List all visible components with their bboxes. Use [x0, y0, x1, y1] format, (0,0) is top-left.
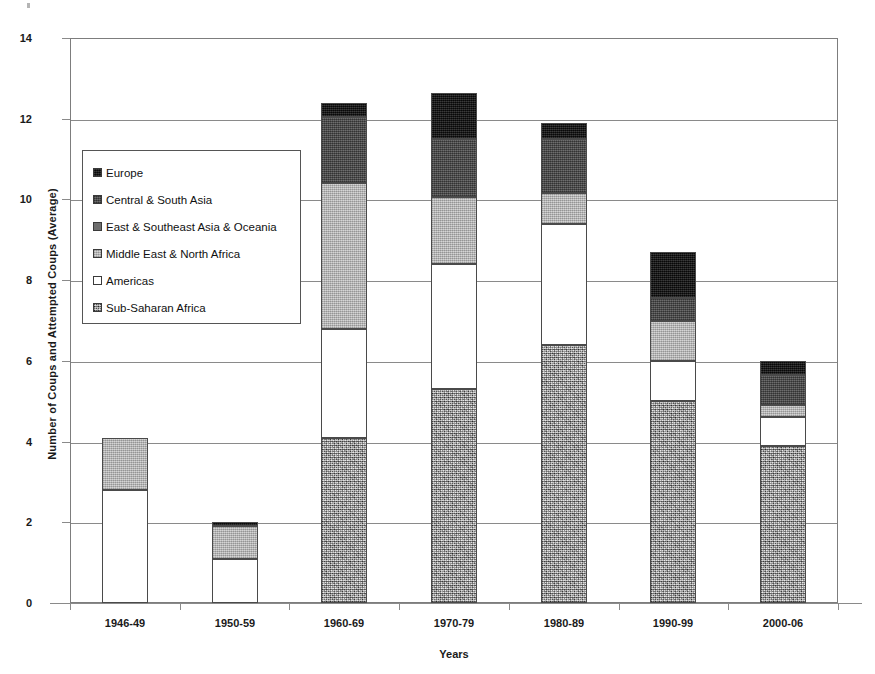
bar-segment-2000-06-sub-saharan-africa[interactable]	[760, 446, 806, 603]
chart-legend: Europe Central & South Asia East & South…	[82, 150, 301, 324]
bar-segment-1970-79-sub-saharan-africa[interactable]	[431, 389, 477, 603]
legend-swatch-icon-americas	[93, 276, 102, 285]
y-tick-mark-12	[62, 119, 70, 120]
y-tick-label-4: 4	[0, 436, 32, 448]
x-tick-mark-7	[838, 603, 839, 610]
bar-segment-1950-59-europe[interactable]	[212, 522, 258, 526]
bar-segment-1970-79-middle-east-north-africa[interactable]	[431, 197, 477, 264]
bar-segment-1950-59-americas[interactable]	[212, 559, 258, 603]
bar-segment-2000-06-central-south-asia[interactable]	[760, 375, 806, 405]
x-tick-label-1960-69: 1960-69	[284, 617, 404, 629]
legend-swatch-icon-east-southeast-asia-oceania	[93, 222, 102, 231]
scan-artifact	[27, 3, 30, 8]
y-tick-mark-8	[62, 280, 70, 281]
x-axis-line	[50, 603, 862, 604]
x-tick-mark-0	[70, 603, 71, 610]
bar-segment-1990-99-americas[interactable]	[650, 361, 696, 401]
y-tick-mark-10	[62, 199, 70, 200]
bar-segment-1970-79-central-south-asia[interactable]	[431, 139, 477, 198]
legend-item-americas[interactable]: Americas	[83, 267, 300, 294]
legend-label-east-southeast-asia-oceania: East & Southeast Asia & Oceania	[106, 221, 277, 233]
x-tick-label-1990-99: 1990-99	[613, 617, 733, 629]
bar-segment-2000-06-europe[interactable]	[760, 361, 806, 375]
bar-segment-1980-89-sub-saharan-africa[interactable]	[541, 345, 587, 603]
bar-segment-1946-49-americas[interactable]	[102, 490, 148, 603]
y-tick-label-14: 14	[0, 32, 32, 44]
y-tick-label-12: 12	[0, 113, 32, 125]
legend-label-americas: Americas	[106, 275, 154, 287]
x-tick-mark-2	[289, 603, 290, 610]
x-tick-mark-3	[399, 603, 400, 610]
y-tick-label-2: 2	[0, 516, 32, 528]
legend-item-europe[interactable]: Europe	[83, 159, 300, 186]
x-axis-title: Years	[70, 648, 838, 660]
x-tick-label-1950-59: 1950-59	[175, 617, 295, 629]
bar-segment-1990-99-middle-east-north-africa[interactable]	[650, 321, 696, 361]
legend-label-europe: Europe	[106, 167, 143, 179]
legend-label-central-south-asia: Central & South Asia	[106, 194, 212, 206]
bar-segment-1960-69-central-south-asia[interactable]	[321, 117, 367, 184]
legend-label-sub-saharan-africa: Sub-Saharan Africa	[106, 302, 206, 314]
x-tick-mark-6	[728, 603, 729, 610]
bar-segment-1980-89-central-south-asia[interactable]	[541, 139, 587, 193]
bar-segment-1980-89-middle-east-north-africa[interactable]	[541, 193, 587, 223]
legend-swatch-icon-middle-east-north-africa	[93, 249, 102, 258]
bar-segment-1970-79-europe[interactable]	[431, 93, 477, 139]
bar-segment-1990-99-europe[interactable]	[650, 252, 696, 298]
bar-segment-1990-99-central-south-asia[interactable]	[650, 298, 696, 320]
bar-segment-1950-59-middle-east-north-africa[interactable]	[212, 526, 258, 558]
bar-segment-1990-99-sub-saharan-africa[interactable]	[650, 401, 696, 603]
x-tick-label-1946-49: 1946-49	[65, 617, 185, 629]
y-tick-mark-4	[62, 442, 70, 443]
y-tick-label-0: 0	[0, 597, 32, 609]
x-tick-label-1970-79: 1970-79	[394, 617, 514, 629]
bar-segment-2000-06-middle-east-north-africa[interactable]	[760, 405, 806, 417]
bar-segment-1960-69-sub-saharan-africa[interactable]	[321, 438, 367, 603]
y-tick-mark-6	[62, 361, 70, 362]
y-tick-label-6: 6	[0, 355, 32, 367]
x-tick-label-1980-89: 1980-89	[504, 617, 624, 629]
bar-segment-1980-89-europe[interactable]	[541, 123, 587, 139]
bar-segment-2000-06-americas[interactable]	[760, 417, 806, 445]
legend-label-middle-east-north-africa: Middle East & North Africa	[106, 248, 240, 260]
y-tick-label-8: 8	[0, 274, 32, 286]
y-tick-mark-2	[62, 522, 70, 523]
x-tick-mark-5	[619, 603, 620, 610]
y-tick-label-10: 10	[0, 193, 32, 205]
legend-item-central-south-asia[interactable]: Central & South Asia	[83, 186, 300, 213]
bar-segment-1960-69-europe[interactable]	[321, 103, 367, 117]
bar-segment-1946-49-middle-east-north-africa[interactable]	[102, 438, 148, 490]
x-tick-label-2000-06: 2000-06	[723, 617, 843, 629]
chart-root: Number of Coups and Attempted Coups (Ave…	[0, 0, 875, 674]
x-tick-mark-4	[509, 603, 510, 610]
legend-swatch-icon-sub-saharan-africa	[93, 303, 102, 312]
legend-item-middle-east-north-africa[interactable]: Middle East & North Africa	[83, 240, 300, 267]
y-axis-title: Number of Coups and Attempted Coups (Ave…	[46, 44, 58, 604]
legend-swatch-icon-central-south-asia	[93, 195, 102, 204]
legend-swatch-icon-europe	[93, 168, 102, 177]
legend-item-east-southeast-asia-oceania[interactable]: East & Southeast Asia & Oceania	[83, 213, 300, 240]
bar-segment-1970-79-americas[interactable]	[431, 264, 477, 389]
y-tick-mark-14	[62, 38, 70, 39]
bar-segment-1980-89-americas[interactable]	[541, 224, 587, 345]
bar-segment-1960-69-middle-east-north-africa[interactable]	[321, 183, 367, 328]
bar-segment-1960-69-americas[interactable]	[321, 329, 367, 438]
legend-item-sub-saharan-africa[interactable]: Sub-Saharan Africa	[83, 294, 300, 321]
x-tick-mark-1	[180, 603, 181, 610]
